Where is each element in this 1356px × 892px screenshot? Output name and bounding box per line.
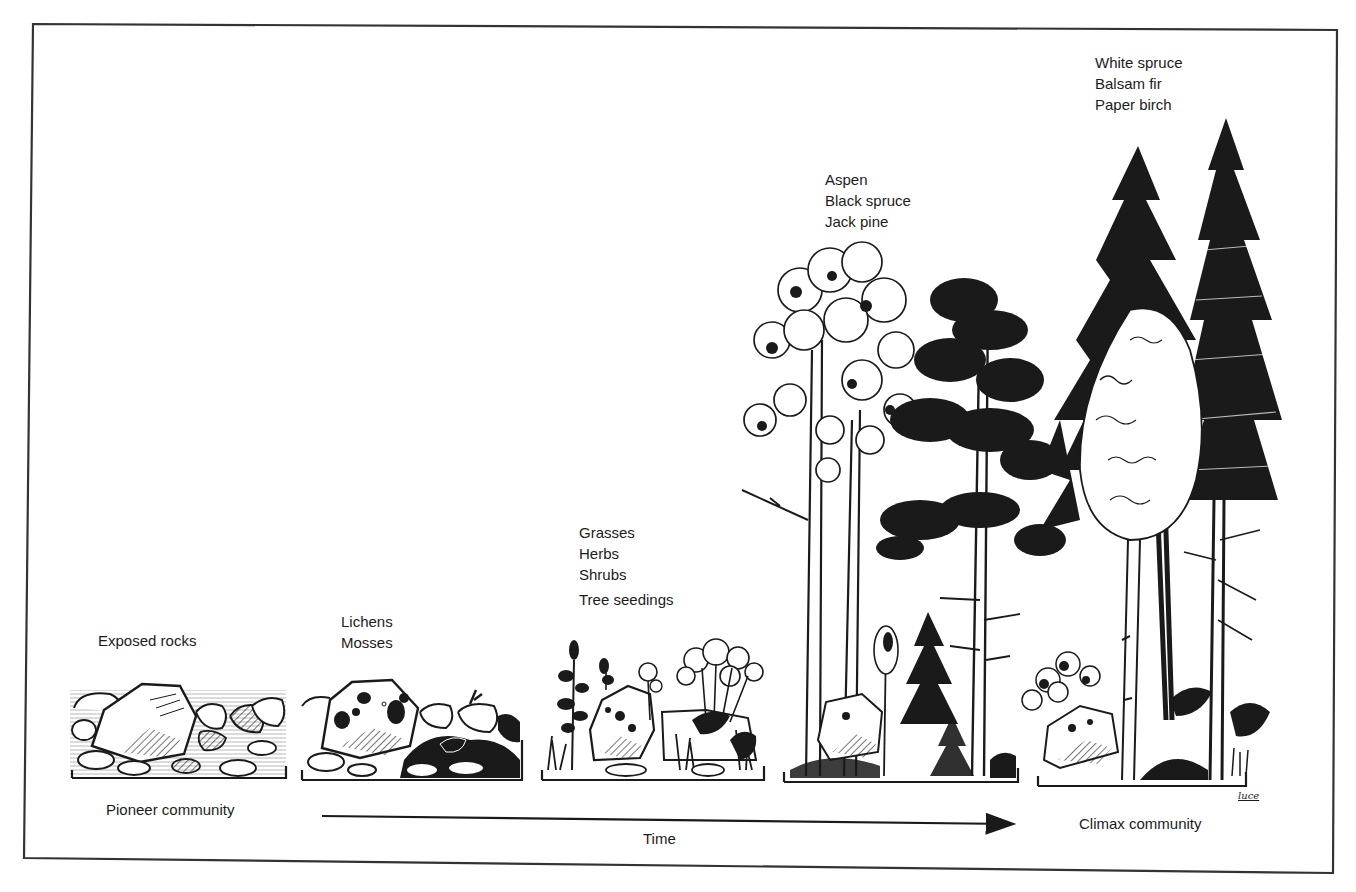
panel-exposed-rocks: [70, 684, 286, 778]
label-line: Mosses: [341, 632, 393, 653]
label-line: Balsam fir: [1095, 73, 1183, 94]
stage-label-spruce-fir-birch: White spruce Balsam fir Paper birch: [1095, 52, 1183, 115]
label-line: Jack pine: [825, 211, 911, 232]
stage-label-lichens-mosses: Lichens Mosses: [341, 611, 393, 653]
figure-frame: [0, 0, 1356, 892]
label-line: Lichens: [341, 611, 393, 632]
panel-aspen-spruce-pine: [742, 242, 1066, 782]
label-line: Aspen: [825, 169, 911, 190]
time-axis-label: Time: [643, 830, 676, 847]
stage-label-aspen-spruce-pine: Aspen Black spruce Jack pine: [825, 169, 911, 232]
panel-spruce-fir-birch: [1022, 118, 1282, 786]
panel-grasses-herbs-shrubs: [542, 639, 764, 780]
label-line: White spruce: [1095, 52, 1183, 73]
label-line: Shrubs: [579, 564, 674, 585]
climax-community-caption: Climax community: [1079, 815, 1202, 832]
stage-label-grasses-herbs-shrubs: Grasses Herbs Shrubs Tree seedings: [579, 522, 674, 610]
label-line: Black spruce: [825, 190, 911, 211]
label-line: Paper birch: [1095, 94, 1183, 115]
artist-signature: luce: [1238, 790, 1259, 801]
panel-lichens-mosses: [302, 680, 522, 780]
stage-label-exposed-rocks: Exposed rocks: [98, 630, 196, 651]
label-line: Exposed rocks: [98, 630, 196, 651]
label-line: Grasses: [579, 522, 674, 543]
succession-illustration: [0, 0, 1356, 892]
label-line: Tree seedings: [579, 589, 674, 610]
time-arrow: [322, 816, 1012, 824]
pioneer-community-caption: Pioneer community: [106, 801, 234, 818]
label-line: Herbs: [579, 543, 674, 564]
